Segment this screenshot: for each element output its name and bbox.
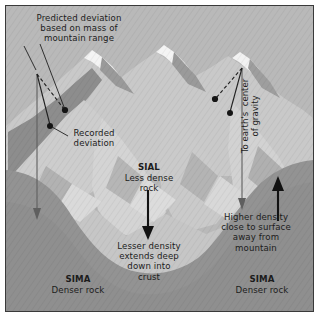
left-recorded-deviation-bob (47, 123, 53, 129)
diagram-frame: Predicted deviation based on mass of mou… (5, 5, 314, 312)
sial-body-label: Less dense rock (110, 173, 188, 193)
right-recorded-deviation-bob (227, 110, 233, 116)
sima-right-body-label: Denser rock (220, 285, 304, 295)
to-earths-center-label: To earth's center of gravity (240, 60, 260, 172)
higher-density-label: Higher density close to surface away fro… (204, 212, 308, 253)
sima-left-body-label: Denser rock (36, 285, 120, 295)
right-predicted-deviation-bob (212, 96, 218, 102)
recorded-deviation-label: Recorded deviation (58, 128, 130, 148)
left-predicted-deviation-bob (62, 107, 68, 113)
sima-left-title-label: SIMA (36, 274, 120, 284)
sima-right-title-label: SIMA (220, 274, 304, 284)
sial-title-label: SIAL (110, 162, 188, 172)
diagram-screenshot: Predicted deviation based on mass of mou… (0, 0, 319, 317)
predicted-deviation-label: Predicted deviation based on mass of mou… (14, 13, 144, 44)
